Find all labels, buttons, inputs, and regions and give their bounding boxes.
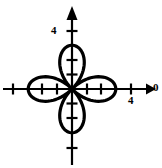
polar-rose-figure: 4 4 0 [0, 0, 162, 168]
y-axis-tick-label-4: 4 [51, 25, 57, 36]
polar-plot-canvas [0, 0, 162, 168]
x-axis-tick-label-4: 4 [128, 95, 134, 106]
x-axis-end-label-0: 0 [153, 82, 159, 93]
arrow-up-icon [67, 6, 78, 20]
x-axis-group [3, 84, 156, 95]
